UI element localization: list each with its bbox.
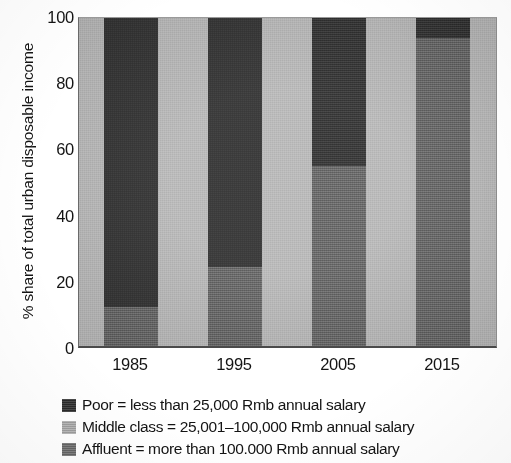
chart-legend: Poor = less than 25,000 Rmb annual salar… — [62, 394, 502, 460]
y-tick-0: 0 — [30, 339, 74, 358]
bar-2015-segment-poor — [416, 18, 470, 38]
bar-2015-segment-affluent — [416, 38, 470, 346]
bar-1995-segment-poor — [208, 18, 262, 267]
x-tick-1985: 1985 — [85, 355, 175, 374]
legend-swatch-affluent-icon — [62, 443, 76, 456]
legend-item-middle-class: Middle class = 25,001–100,000 Rmb annual… — [62, 416, 502, 438]
bar-2005-segment-poor — [312, 18, 366, 166]
y-tick-60: 60 — [30, 140, 74, 159]
plot-area — [78, 17, 497, 348]
legend-label-poor: Poor = less than 25,000 Rmb annual salar… — [82, 396, 365, 414]
x-tick-2005: 2005 — [293, 355, 383, 374]
y-tick-80: 80 — [30, 74, 74, 93]
x-tick-2015: 2015 — [397, 355, 487, 374]
legend-item-poor: Poor = less than 25,000 Rmb annual salar… — [62, 394, 502, 416]
x-axis-tick-labels: 1985 1995 2005 2015 — [78, 355, 497, 381]
y-tick-100: 100 — [30, 8, 74, 27]
y-axis-tick-labels: 0 20 40 60 80 100 — [30, 0, 74, 360]
bar-2005-segment-affluent — [312, 166, 366, 346]
legend-item-affluent: Affluent = more than 100.000 Rmb annual … — [62, 438, 502, 460]
x-tick-1995: 1995 — [189, 355, 279, 374]
bar-2015 — [416, 18, 470, 346]
stacked-bar-chart-figure: % share of total urban disposable income… — [0, 0, 511, 463]
legend-swatch-middle-class-icon — [62, 421, 76, 434]
bar-1985-segment-affluent — [104, 307, 158, 346]
legend-label-middle-class: Middle class = 25,001–100,000 Rmb annual… — [82, 418, 414, 436]
y-tick-20: 20 — [30, 273, 74, 292]
bar-2005 — [312, 18, 366, 346]
bar-1995 — [208, 18, 262, 346]
y-tick-40: 40 — [30, 207, 74, 226]
bar-1985-segment-poor — [104, 18, 158, 307]
bar-1995-segment-affluent — [208, 267, 262, 346]
legend-swatch-poor-icon — [62, 399, 76, 412]
bar-1985 — [104, 18, 158, 346]
legend-label-affluent: Affluent = more than 100.000 Rmb annual … — [82, 440, 400, 458]
